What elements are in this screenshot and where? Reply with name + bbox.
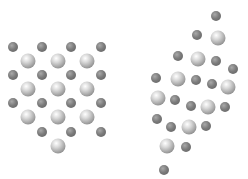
small-atom [211,56,221,66]
small-atom [66,98,76,108]
small-atom [66,127,76,137]
large-atom [171,72,186,87]
small-atom [37,98,47,108]
small-atom [152,114,162,124]
small-atom [181,142,191,152]
large-atom [80,54,95,69]
small-atom [8,42,18,52]
small-atom [170,95,180,105]
large-atom [80,82,95,97]
large-atom [191,52,206,67]
small-atom [211,11,221,21]
small-atom [8,98,18,108]
large-atom [21,110,36,125]
small-atom [96,127,106,137]
small-atom [192,30,202,40]
small-atom [228,64,238,74]
large-atom [21,82,36,97]
large-atom [21,54,36,69]
small-atom [207,79,217,89]
small-atom [220,102,230,112]
large-atom [51,82,66,97]
small-atom [66,42,76,52]
small-atom [96,70,106,80]
large-atom [151,91,166,106]
large-atom [51,139,66,154]
small-atom [201,121,211,131]
small-atom [159,165,169,175]
small-atom [8,70,18,80]
figure [0,0,248,179]
small-atom [151,73,161,83]
small-atom [166,122,176,132]
large-atom [211,31,226,46]
small-atom [37,127,47,137]
large-atom [51,110,66,125]
small-atom [173,51,183,61]
large-atom [51,54,66,69]
large-atom [80,110,95,125]
small-atom [96,98,106,108]
small-atom [191,75,201,85]
small-atom [37,42,47,52]
small-atom [186,101,196,111]
large-atom [221,80,236,95]
small-atom [96,42,106,52]
small-atom [37,70,47,80]
large-atom [201,100,216,115]
small-atom [66,70,76,80]
large-atom [182,120,197,135]
large-atom [160,139,175,154]
